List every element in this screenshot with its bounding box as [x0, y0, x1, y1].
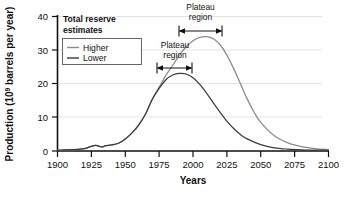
annotation-plateau-lower-line1: Plateau — [161, 40, 190, 50]
ytick-label-30: 30 — [37, 45, 48, 56]
y-axis-ticks — [52, 17, 57, 152]
xtick-label-2025: 2025 — [216, 159, 237, 170]
y-axis-title-rest: barrels per year) — [4, 7, 15, 88]
chart-canvas: 40 30 20 10 0 1900 1925 1950 1975 2000 2… — [0, 0, 344, 201]
xtick-label-2050: 2050 — [250, 159, 271, 170]
xtick-label-1900: 1900 — [47, 159, 68, 170]
annotation-plateau-higher-line1: Plateau — [186, 2, 215, 12]
ytick-label-10: 10 — [37, 112, 48, 123]
xtick-label-2100: 2100 — [318, 159, 339, 170]
annotation-plateau-lower-line2: region — [163, 50, 187, 60]
legend-title-line1: Total reserve — [63, 14, 116, 24]
series-line-lower — [58, 73, 329, 150]
ytick-label-0: 0 — [43, 146, 48, 157]
xtick-label-1925: 1925 — [81, 159, 102, 170]
oil-production-chart: 40 30 20 10 0 1900 1925 1950 1975 2000 2… — [0, 0, 344, 201]
legend[interactable]: Total reserve estimates Higher Lower — [63, 14, 142, 65]
axes — [57, 15, 329, 151]
annotation-plateau-higher-line2: region — [189, 12, 213, 22]
annotation-plateau-higher-arrow — [179, 26, 223, 37]
y-axis-title-main: Production (10 — [4, 91, 15, 161]
xtick-label-1950: 1950 — [115, 159, 136, 170]
x-axis-ticks — [58, 151, 329, 157]
xtick-label-1975: 1975 — [149, 159, 170, 170]
y-axis-title: Production (109 barrels per year) — [4, 7, 15, 162]
legend-title-line2: estimates — [63, 25, 103, 35]
legend-label-lower[interactable]: Lower — [83, 53, 107, 63]
annotation-plateau-lower-arrow — [157, 63, 193, 74]
ytick-label-40: 40 — [37, 11, 48, 22]
x-axis-title: Years — [180, 175, 207, 186]
xtick-label-2000: 2000 — [182, 159, 203, 170]
legend-label-higher[interactable]: Higher — [83, 43, 108, 53]
ytick-label-20: 20 — [37, 78, 48, 89]
annotation-plateau-higher: Plateau region — [179, 2, 223, 37]
annotation-plateau-lower: Plateau region — [157, 40, 193, 74]
xtick-label-2075: 2075 — [284, 159, 305, 170]
